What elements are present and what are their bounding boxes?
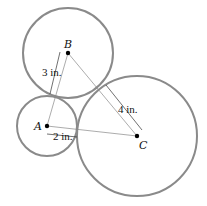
dimension-label-a: 2 in. — [53, 130, 73, 142]
point-a — [45, 124, 49, 128]
label-a: A — [33, 120, 42, 133]
label-b: B — [63, 38, 72, 51]
dimension-label-b: 3 in. — [42, 66, 62, 78]
dimension-label-c: 4 in. — [118, 103, 138, 115]
point-c — [135, 134, 139, 138]
tangent-circles-diagram: A B C 3 in. 4 in. 2 in. — [0, 0, 207, 206]
label-c: C — [139, 139, 148, 152]
point-b — [66, 51, 70, 55]
